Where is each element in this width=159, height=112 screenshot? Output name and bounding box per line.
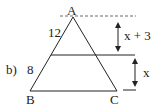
lower-height-label: x xyxy=(143,65,150,80)
vertex-a-label: A xyxy=(67,3,77,18)
vertex-b-label: B xyxy=(26,92,35,107)
side-12-label: 12 xyxy=(48,25,61,40)
vertex-c-label: C xyxy=(110,92,119,107)
side-8-label: 8 xyxy=(27,62,34,77)
part-label: b) xyxy=(6,62,17,77)
upper-height-arrow-icon xyxy=(115,22,121,52)
upper-height-label: x + 3 xyxy=(124,28,151,43)
lower-height-arrow-icon xyxy=(132,58,138,87)
triangle-diagram: A B C 12 8 b) x + 3 x xyxy=(0,0,159,112)
triangle-abc xyxy=(30,17,117,91)
